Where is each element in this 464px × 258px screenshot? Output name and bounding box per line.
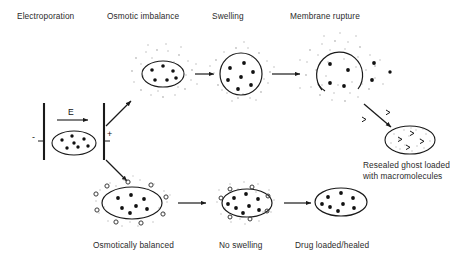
label-no-swelling: No swelling [219,240,263,251]
label-osmotically-balanced: Osmotically balanced [93,240,174,251]
membrane-rupture-stipple [299,32,384,102]
swelling-cell [220,53,262,95]
osmotically-balanced-cell [94,180,168,225]
no-swelling-cell [219,185,272,221]
rupture-to-ghost-arrow [364,104,391,127]
osmotic-imbalance-stipple [131,43,198,98]
figure-canvas: Electroporation Osmotic imbalance Swelli… [0,0,464,258]
anode-sign: + [107,130,112,139]
label-drug-loaded-healed: Drug loaded/healed [295,240,369,251]
label-swelling: Swelling [212,11,244,22]
label-osmotic-imbalance: Osmotic imbalance [107,11,179,22]
resealed-ghost-cell [385,126,435,154]
drug-loaded-cell [315,188,367,216]
no-swelling-stipple [216,181,275,225]
label-electroporation: Electroporation [17,11,74,22]
swelling-stipple [209,41,275,102]
branch-up-arrow [106,101,131,126]
branch-down-arrow [106,160,127,181]
membrane-rupture-cell [317,52,392,91]
ghost-caption-line1: Resealed ghost loaded [363,160,464,171]
cathode-sign: - [32,133,35,142]
label-membrane-rupture: Membrane rupture [290,11,360,22]
osmotic-imbalance-cell [142,61,184,87]
diagram-svg [0,0,464,258]
electrode-cathode [38,103,44,160]
field-label-E: E [68,107,74,117]
escaping-macromolecule-icon [362,110,390,122]
ghost-caption-line2: with macromolecules [363,171,464,182]
electroporation-cell [52,131,96,155]
